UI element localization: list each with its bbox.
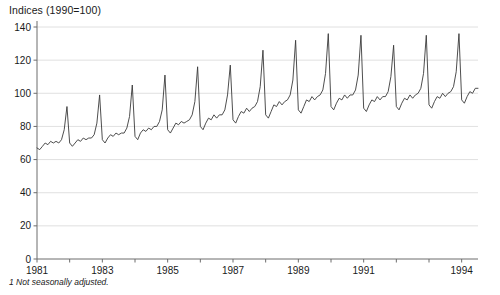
data-series-line bbox=[37, 34, 478, 150]
svg-text:1983: 1983 bbox=[91, 265, 114, 276]
svg-text:1989: 1989 bbox=[287, 265, 310, 276]
svg-text:60: 60 bbox=[20, 154, 32, 165]
svg-text:140: 140 bbox=[14, 22, 31, 33]
y-axis-tick-labels: 020406080100120140 bbox=[14, 22, 31, 265]
svg-text:1985: 1985 bbox=[157, 265, 180, 276]
svg-text:40: 40 bbox=[20, 187, 32, 198]
chart-plot-svg: 020406080100120140 198119831985198719891… bbox=[0, 0, 500, 295]
y-axis-ticks bbox=[34, 27, 38, 259]
svg-text:0: 0 bbox=[25, 254, 31, 265]
svg-text:20: 20 bbox=[20, 220, 32, 231]
svg-text:1987: 1987 bbox=[222, 265, 245, 276]
svg-text:1994: 1994 bbox=[451, 265, 474, 276]
x-axis-ticks bbox=[37, 259, 462, 263]
svg-text:120: 120 bbox=[14, 55, 31, 66]
svg-text:100: 100 bbox=[14, 88, 31, 99]
svg-text:1981: 1981 bbox=[26, 265, 49, 276]
gridlines bbox=[37, 27, 478, 226]
footnote-text: 1 Not seasonally adjusted. bbox=[9, 277, 109, 287]
svg-text:1991: 1991 bbox=[353, 265, 376, 276]
svg-text:80: 80 bbox=[20, 121, 32, 132]
chart-footnote: 1 Not seasonally adjusted. bbox=[9, 277, 109, 287]
x-axis-tick-labels: 1981198319851987198919911994 bbox=[26, 265, 473, 276]
chart-container: Indices (1990=100) 020406080100120140 19… bbox=[0, 0, 500, 295]
